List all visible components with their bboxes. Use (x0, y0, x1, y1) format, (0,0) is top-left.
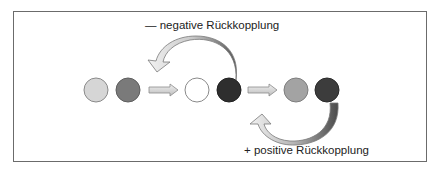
right-arrow-icon (149, 84, 178, 96)
circle-gray (284, 78, 308, 102)
negative-feedback-label: — negative Rückkopplung (145, 19, 279, 31)
positive-feedback-label: + positive Rückkopplung (244, 144, 369, 156)
right-arrow-icon (248, 84, 277, 96)
positive-feedback-arrow (250, 103, 338, 145)
circle-dark (315, 78, 339, 102)
negative-feedback-arrow (148, 36, 237, 80)
circle-medium-gray (116, 78, 140, 102)
circle-black (217, 78, 241, 102)
circle-white (185, 78, 209, 102)
circle-light-gray (84, 78, 108, 102)
